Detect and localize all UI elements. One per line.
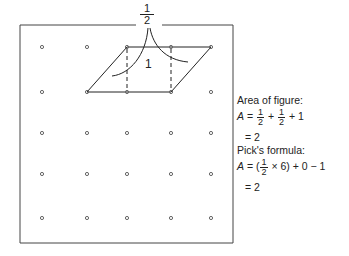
half-label-denominator: 2	[140, 15, 154, 26]
pick-variable: A	[237, 160, 244, 172]
plus-one-term: + 1	[286, 110, 304, 122]
pick-result: = 2	[245, 182, 260, 193]
area-result: = 2	[245, 132, 260, 143]
pointer-curve-left	[112, 28, 148, 76]
geoboard-diagram	[0, 0, 349, 256]
pick-heading: Pick's formula:	[237, 145, 305, 156]
fraction-half: 12	[278, 108, 285, 127]
area-equation: A = 12 + 12 + 1	[237, 108, 304, 127]
pick-equation: A = (12 × 6) + 0 − 1	[237, 158, 325, 177]
pick-terms: × 6) + 0 − 1	[269, 160, 326, 172]
fraction-denominator: 2	[260, 168, 267, 177]
area-heading: Area of figure:	[237, 95, 303, 106]
unit-square-label: 1	[145, 57, 152, 71]
area-variable: A	[237, 110, 244, 122]
half-label: 1 2	[140, 3, 154, 26]
fraction-half: 12	[260, 158, 267, 177]
equals-sign: =	[244, 110, 256, 122]
fraction-half: 12	[257, 108, 264, 127]
plus-sign: +	[265, 110, 277, 122]
equals-paren: = (	[244, 160, 259, 172]
fraction-denominator: 2	[278, 118, 285, 127]
fraction-denominator: 2	[257, 118, 264, 127]
pointer-curve-right	[150, 28, 188, 62]
